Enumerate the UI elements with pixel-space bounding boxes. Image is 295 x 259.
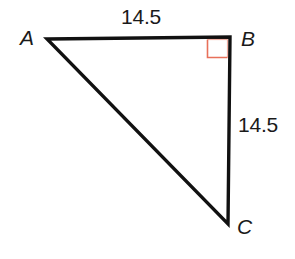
side-length-label-bc: 14.5 (238, 114, 278, 135)
vertex-label-c: C (237, 216, 252, 237)
vertex-label-a: A (20, 27, 34, 48)
side-length-label-ab: 14.5 (121, 6, 161, 27)
vertex-label-b: B (241, 28, 255, 49)
triangle-abc (47, 37, 230, 224)
